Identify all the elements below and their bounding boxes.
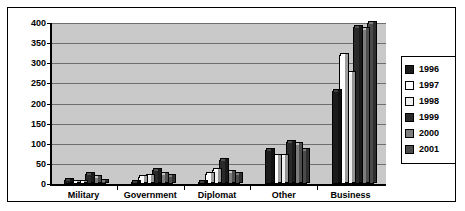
y-axis-tick-label: 300	[12, 59, 46, 68]
bar-side-face	[105, 179, 109, 183]
bar-cluster	[319, 23, 386, 184]
bar-side-face	[211, 172, 215, 183]
y-axis-tick-mark	[47, 104, 51, 105]
bar	[64, 180, 71, 184]
x-axis-tick-mark	[184, 186, 185, 190]
bar-cluster	[119, 23, 186, 184]
y-axis: 050100150200250300350400	[8, 23, 46, 186]
bar-side-face	[98, 175, 102, 183]
legend-label: 1999	[419, 113, 439, 122]
bar-side-face	[84, 180, 88, 183]
y-axis-tick-label: 50	[12, 160, 46, 169]
legend-item: 1996	[405, 61, 452, 77]
chart-screenshot: 050100150200250300350400 MilitaryGovernm…	[0, 0, 465, 211]
bar-side-face	[285, 154, 289, 183]
x-axis-tick-label: Diplomat	[184, 190, 251, 201]
bar-side-face	[218, 168, 222, 183]
y-axis-tick-label: 400	[12, 19, 46, 28]
y-axis-tick-label: 200	[12, 100, 46, 109]
legend-item: 1997	[405, 77, 452, 93]
bar-side-face	[225, 158, 229, 183]
bar-side-face	[366, 27, 370, 183]
x-axis-tick-mark	[117, 186, 118, 190]
bar-side-face	[144, 175, 148, 183]
bar-side-face	[137, 180, 141, 183]
bar	[332, 91, 339, 184]
bar-side-face	[345, 53, 349, 183]
legend-item: 1998	[405, 93, 452, 109]
y-axis-tick-mark	[47, 184, 51, 185]
bar-side-face	[338, 89, 342, 183]
bar	[131, 182, 138, 184]
bar-cluster	[52, 23, 119, 184]
legend-item: 1999	[405, 109, 452, 125]
legend-label: 2001	[419, 145, 439, 154]
bar-side-face	[306, 148, 310, 183]
y-axis-tick-mark	[47, 144, 51, 145]
legend-swatch	[405, 129, 414, 138]
bar-side-face	[172, 174, 176, 183]
legend-item: 2000	[405, 125, 452, 141]
bar-side-face	[70, 178, 74, 183]
bar-side-face	[292, 140, 296, 183]
bar-side-face	[204, 180, 208, 183]
y-axis-tick-label: 0	[12, 180, 46, 189]
y-axis-tick-label: 250	[12, 79, 46, 88]
bar-cluster	[186, 23, 253, 184]
x-axis-tick-mark	[317, 186, 318, 190]
legend-label: 1997	[419, 81, 439, 90]
x-axis-tick-mark	[250, 186, 251, 190]
x-axis-tick-label: Government	[117, 190, 184, 201]
legend-label: 1998	[419, 97, 439, 106]
legend-swatch	[405, 81, 414, 90]
x-axis-tick-label: Other	[250, 190, 317, 201]
bar-cluster	[252, 23, 319, 184]
y-axis-tick-label: 100	[12, 140, 46, 149]
legend-label: 1996	[419, 65, 439, 74]
bar-side-face	[352, 71, 356, 183]
bar-side-face	[151, 174, 155, 183]
legend-item: 2001	[405, 141, 452, 157]
bar-side-face	[158, 168, 162, 183]
chart-frame: 050100150200250300350400 MilitaryGovernm…	[7, 7, 456, 202]
legend-swatch	[405, 97, 414, 106]
y-axis-tick-mark	[47, 83, 51, 84]
bar	[198, 182, 205, 184]
bar-side-face	[299, 142, 303, 183]
bar-side-face	[271, 148, 275, 183]
bar	[265, 150, 272, 184]
bar-side-face	[239, 172, 243, 183]
bar-side-face	[278, 154, 282, 183]
bar-side-face	[77, 180, 81, 183]
bar-side-face	[232, 170, 236, 183]
bar-side-face	[165, 172, 169, 183]
legend-swatch	[405, 65, 414, 74]
bar-side-face	[359, 25, 363, 183]
y-axis-tick-mark	[47, 124, 51, 125]
x-axis-tick-label: Military	[50, 190, 117, 201]
bar-side-face	[91, 172, 95, 183]
legend-label: 2000	[419, 129, 439, 138]
y-axis-tick-mark	[47, 43, 51, 44]
x-axis-tick-label: Business	[317, 190, 384, 201]
legend-swatch	[405, 113, 414, 122]
legend-swatch	[405, 145, 414, 154]
y-axis-tick-mark	[47, 23, 51, 24]
bar-side-face	[373, 21, 377, 183]
x-axis: MilitaryGovernmentDiplomatOtherBusiness	[50, 190, 386, 204]
y-axis-tick-mark	[47, 63, 51, 64]
chart-legend: 199619971998199920002001	[401, 56, 456, 164]
y-axis-tick-label: 150	[12, 120, 46, 129]
bars-layer	[52, 23, 386, 184]
y-axis-tick-mark	[47, 164, 51, 165]
y-axis-tick-label: 350	[12, 39, 46, 48]
